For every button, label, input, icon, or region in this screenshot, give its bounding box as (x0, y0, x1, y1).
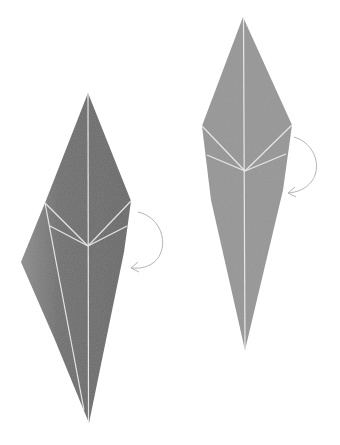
left-paper-shape (21, 93, 131, 423)
step-right-figure (202, 17, 317, 350)
right-paper-shape (202, 17, 292, 350)
step-left-figure (21, 93, 163, 423)
origami-diagram (0, 0, 340, 445)
left-turn-over-arrow-icon (131, 212, 163, 272)
right-turn-over-arrow-icon (288, 137, 317, 197)
